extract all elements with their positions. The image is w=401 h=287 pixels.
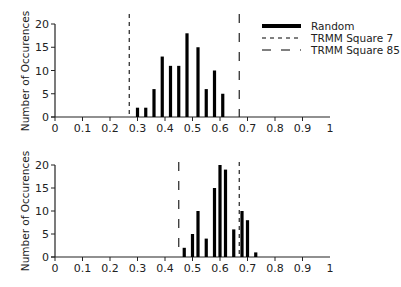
histogram-bar (177, 66, 180, 117)
axes-bottom: 0510152000.10.20.30.40.50.60.70.80.91 (35, 159, 334, 275)
x-tick-label: 0.3 (129, 122, 147, 135)
x-tick-label: 0.8 (266, 122, 284, 135)
y-axis-title-top: Number of Occurences (19, 11, 31, 131)
x-tick-label: 0.9 (294, 122, 312, 135)
histogram-bar (224, 170, 227, 257)
y-tick-label: 20 (35, 159, 49, 172)
x-tick-label: 0.4 (156, 262, 174, 275)
y-tick-label: 10 (35, 65, 49, 78)
histogram-bar (161, 57, 164, 117)
x-tick-label: 0.9 (294, 262, 312, 275)
x-tick-label: 0.6 (211, 122, 229, 135)
histogram-bar (246, 220, 249, 257)
bottom-panel: Number of Occurences 0510152000.10.20.30… (19, 151, 334, 275)
histogram-bar (169, 66, 172, 117)
x-tick-label: 0.4 (156, 122, 174, 135)
x-tick-label: 0.7 (239, 262, 257, 275)
histogram-bar (185, 33, 188, 117)
histogram-bar (196, 47, 199, 117)
y-tick-label: 15 (35, 41, 49, 54)
x-tick-label: 0 (52, 262, 59, 275)
y-tick-label: 5 (42, 228, 49, 241)
y-tick-label: 20 (35, 18, 49, 31)
x-tick-label: 0.7 (239, 122, 257, 135)
x-tick-label: 0 (52, 122, 59, 135)
y-tick-label: 5 (42, 88, 49, 101)
histogram-bar (196, 211, 199, 257)
x-tick-label: 0.3 (129, 262, 147, 275)
histogram-bar (144, 108, 147, 117)
y-tick-label: 0 (42, 251, 49, 264)
histogram-bar (191, 234, 194, 257)
top-panel: Number of Occurences 0510152000.10.20.30… (19, 11, 334, 135)
reference-lines-bottom (179, 162, 240, 257)
y-tick-label: 15 (35, 182, 49, 195)
x-tick-label: 0.5 (184, 262, 202, 275)
bars-bottom (183, 165, 258, 257)
y-tick-label: 0 (42, 111, 49, 124)
legend-label-trmm-square-85: TRMM Square 85 (310, 44, 400, 56)
histogram-bar (205, 239, 208, 257)
histogram-bar (221, 94, 224, 117)
legend-label-trmm-square-7: TRMM Square 7 (310, 32, 393, 44)
histogram-bar (183, 248, 186, 257)
x-tick-label: 0.8 (266, 262, 284, 275)
histogram-figure: Number of Occurences 0510152000.10.20.30… (0, 0, 401, 287)
y-axis-title-bottom: Number of Occurences (19, 151, 31, 271)
histogram-bar (213, 188, 216, 257)
x-tick-label: 0.5 (184, 122, 202, 135)
histogram-bar (218, 165, 221, 257)
x-tick-label: 0.2 (101, 122, 119, 135)
legend-label-random: Random (311, 20, 354, 32)
legend: Random TRMM Square 7 TRMM Square 85 (262, 20, 400, 56)
histogram-bar (254, 252, 257, 257)
histogram-bar (213, 71, 216, 118)
x-tick-label: 0.1 (74, 262, 92, 275)
histogram-bar (205, 89, 208, 117)
x-tick-label: 0.6 (211, 262, 229, 275)
histogram-bar (232, 229, 235, 257)
histogram-bar (152, 89, 155, 117)
x-tick-label: 0.2 (101, 262, 119, 275)
axes-top: 0510152000.10.20.30.40.50.60.70.80.91 (35, 18, 334, 135)
histogram-bar (136, 108, 139, 117)
x-tick-label: 0.1 (74, 122, 92, 135)
y-tick-label: 10 (35, 205, 49, 218)
bars-top (136, 33, 224, 117)
x-tick-label: 1 (327, 262, 334, 275)
histogram-bar (240, 211, 243, 257)
x-tick-label: 1 (327, 122, 334, 135)
